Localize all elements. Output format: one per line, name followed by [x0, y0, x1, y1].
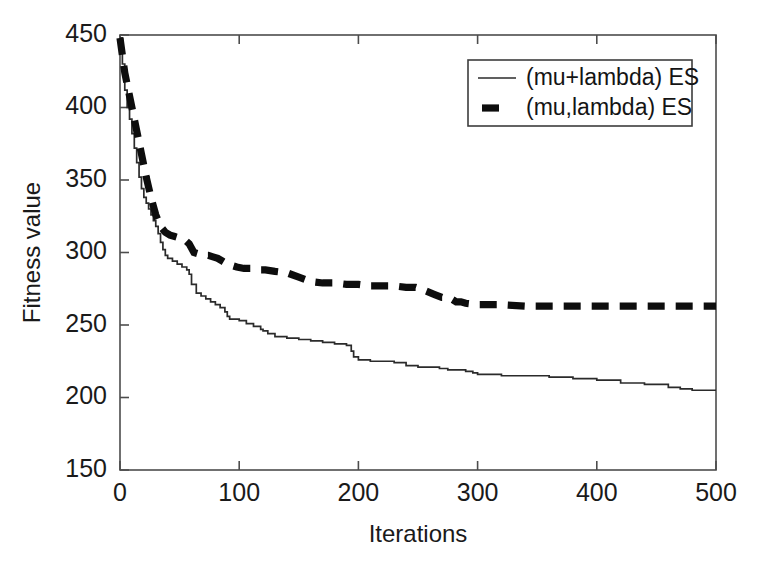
y-tick-label: 450: [65, 19, 107, 47]
x-tick-label: 300: [457, 478, 499, 506]
x-tick-label: 100: [218, 478, 260, 506]
x-axis-title: Iterations: [369, 520, 468, 547]
y-tick-label: 150: [65, 454, 107, 482]
y-tick-label: 200: [65, 381, 107, 409]
x-tick-label: 200: [338, 478, 380, 506]
legend-label-1: (mu+lambda) ES: [526, 64, 699, 90]
x-tick-label: 400: [576, 478, 618, 506]
y-axis-title: Fitness value: [18, 182, 45, 323]
y-tick-label: 300: [65, 236, 107, 264]
y-tick-label: 400: [65, 91, 107, 119]
figure-canvas: 1502002503003504004500100200300400500 It…: [0, 0, 768, 568]
x-tick-label: 500: [695, 478, 737, 506]
y-tick-label: 250: [65, 309, 107, 337]
chart-plot-area: 1502002503003504004500100200300400500 It…: [0, 0, 768, 568]
legend-label-2: (mu,lambda) ES: [526, 94, 692, 120]
y-tick-label: 350: [65, 164, 107, 192]
x-tick-label: 0: [113, 478, 127, 506]
chart-legend: (mu+lambda) ES(mu,lambda) ES: [468, 60, 699, 126]
